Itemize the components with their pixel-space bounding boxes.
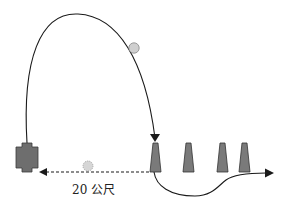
arc-arrowhead-icon — [150, 134, 160, 142]
dribble-path — [154, 172, 266, 196]
dashed-arrowhead-icon — [39, 168, 47, 176]
ball-icon — [129, 43, 139, 53]
player-icon — [16, 143, 38, 172]
arc-path — [26, 14, 155, 143]
ball-icon — [83, 161, 93, 171]
exit-arrowhead-icon — [265, 169, 274, 178]
cone-icon — [217, 143, 228, 172]
drill-diagram — [0, 0, 283, 210]
cone-icon — [239, 143, 250, 172]
cone-icon — [183, 143, 194, 172]
cone-icon — [150, 143, 161, 172]
distance-label: 20 公尺 — [72, 180, 115, 197]
